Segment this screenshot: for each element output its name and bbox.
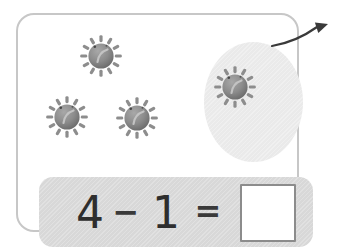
take-away-arrow-icon: [256, 12, 340, 56]
equals-sign: =: [195, 195, 222, 227]
minus-sign: −: [113, 196, 140, 228]
subtrahend-number: 1: [152, 191, 180, 235]
minuend-number: 4: [76, 191, 104, 235]
equation-band: 4 − 1 =: [39, 177, 313, 247]
take-away-oval: [204, 42, 303, 162]
answer-box[interactable]: [240, 184, 296, 242]
